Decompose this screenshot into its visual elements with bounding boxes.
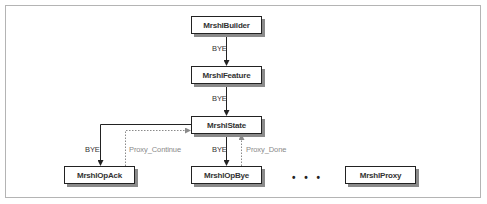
- node-label: MrshlOpAck: [77, 171, 122, 180]
- edge-label-feature-state: BYE: [212, 94, 227, 103]
- node-label: MrshlState: [207, 121, 246, 130]
- edge-label-proxy-done: Proxy_Done: [246, 145, 286, 154]
- node-mrshl-op-ack: MrshlOpAck: [64, 166, 135, 184]
- edge-label-state-opbye: BYE: [212, 145, 227, 154]
- node-label: MrshlBuilder: [203, 21, 250, 30]
- node-label: MrshlOpBye: [204, 171, 249, 180]
- node-mrshl-builder: MrshlBuilder: [191, 16, 262, 34]
- node-mrshl-op-bye: MrshlOpBye: [191, 166, 262, 184]
- edge-label-builder-feature: BYE: [212, 44, 227, 53]
- node-label: MrshlProxy: [360, 171, 402, 180]
- edge-label-proxy-continue: Proxy_Continue: [129, 145, 181, 154]
- edge-label-state-opack: BYE: [85, 145, 100, 154]
- node-mrshl-proxy: MrshlProxy: [345, 166, 416, 184]
- node-label: MrshlFeature: [203, 71, 251, 80]
- node-mrshl-state: MrshlState: [191, 116, 262, 134]
- node-mrshl-feature: MrshlFeature: [191, 66, 262, 84]
- ellipsis-more-nodes: • • •: [292, 172, 323, 183]
